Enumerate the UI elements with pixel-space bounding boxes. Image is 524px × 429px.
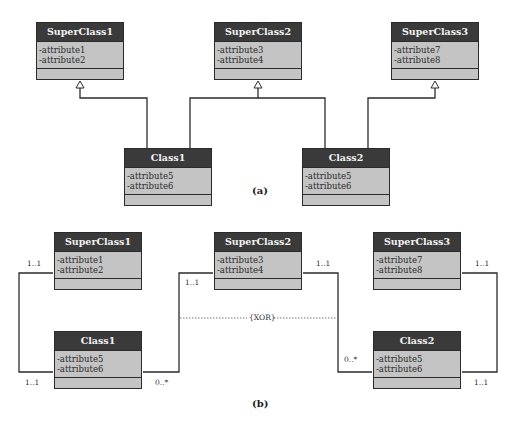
class-name: Class2 (374, 332, 460, 351)
attribute: -attribute5 (305, 171, 389, 181)
attribute: -attribute6 (127, 181, 211, 191)
class-operations (392, 69, 478, 79)
class-operations (303, 195, 389, 205)
multiplicity-label: 0..* (344, 355, 357, 364)
attribute: -attribute6 (376, 364, 460, 374)
attribute: -attribute8 (376, 265, 460, 275)
class-attributes: -attribute5 -attribute6 (303, 168, 389, 195)
attribute: -attribute5 (127, 171, 211, 181)
class-name: Class1 (125, 149, 211, 168)
attribute: -attribute1 (57, 255, 141, 265)
class-name: SuperClass3 (392, 23, 478, 42)
class-box-class1-b[interactable]: Class1 -attribute5 -attribute6 (54, 331, 142, 389)
caption-b: (b) (252, 398, 268, 409)
class-attributes: -attribute1 -attribute2 (37, 42, 123, 69)
class-box-superclass2-b[interactable]: SuperClass2 -attribute3 -attribute4 (214, 232, 302, 290)
multiplicity-label: 1..1 (27, 259, 41, 268)
generalization-arrow-icon (431, 81, 439, 88)
class-operations (374, 279, 460, 289)
class-box-superclass2-a[interactable]: SuperClass2 -attribute3 -attribute4 (214, 22, 302, 80)
class-box-class2-b[interactable]: Class2 -attribute5 -attribute6 (373, 331, 461, 389)
class-operations (215, 279, 301, 289)
class-attributes: -attribute7 -attribute8 (392, 42, 478, 69)
class-attributes: -attribute5 -attribute6 (125, 168, 211, 195)
attribute: -attribute6 (57, 364, 141, 374)
class-attributes: -attribute1 -attribute2 (55, 252, 141, 279)
class-attributes: -attribute7 -attribute8 (374, 252, 460, 279)
attribute: -attribute3 (217, 45, 301, 55)
multiplicity-label: 1..1 (185, 278, 199, 287)
attribute: -attribute1 (39, 45, 123, 55)
xor-constraint-label: {XOR} (249, 313, 276, 322)
attribute: -attribute5 (57, 354, 141, 364)
multiplicity-label: 1..1 (474, 378, 488, 387)
class-attributes: -attribute3 -attribute4 (215, 252, 301, 279)
class-operations (215, 69, 301, 79)
attribute: -attribute7 (376, 255, 460, 265)
class-name: Class2 (303, 149, 389, 168)
generalization-arrow-icon (254, 81, 262, 88)
class-box-superclass3-b[interactable]: SuperClass3 -attribute7 -attribute8 (373, 232, 461, 290)
class-name: Class1 (55, 332, 141, 351)
class-attributes: -attribute3 -attribute4 (215, 42, 301, 69)
attribute: -attribute7 (394, 45, 478, 55)
class-operations (37, 69, 123, 79)
caption-a: (a) (252, 185, 268, 196)
class-name: SuperClass2 (215, 23, 301, 42)
multiplicity-label: 1..1 (316, 259, 330, 268)
multiplicity-label: 0..* (155, 378, 168, 387)
class-operations (125, 195, 211, 205)
multiplicity-label: 1..1 (25, 378, 39, 387)
generalization-arrow-icon (76, 81, 84, 88)
attribute: -attribute2 (39, 55, 123, 65)
attribute: -attribute3 (217, 255, 301, 265)
class-box-superclass3-a[interactable]: SuperClass3 -attribute7 -attribute8 (391, 22, 479, 80)
class-box-superclass1-b[interactable]: SuperClass1 -attribute1 -attribute2 (54, 232, 142, 290)
class-name: SuperClass1 (55, 233, 141, 252)
class-operations (55, 378, 141, 388)
class-attributes: -attribute5 -attribute6 (55, 351, 141, 378)
attribute: -attribute4 (217, 55, 301, 65)
attribute: -attribute4 (217, 265, 301, 275)
attribute: -attribute2 (57, 265, 141, 275)
class-box-class2-a[interactable]: Class2 -attribute5 -attribute6 (302, 148, 390, 206)
class-name: SuperClass1 (37, 23, 123, 42)
class-attributes: -attribute5 -attribute6 (374, 351, 460, 378)
class-box-class1-a[interactable]: Class1 -attribute5 -attribute6 (124, 148, 212, 206)
class-operations (374, 378, 460, 388)
class-operations (55, 279, 141, 289)
multiplicity-label: 1..1 (475, 259, 489, 268)
class-name: SuperClass2 (215, 233, 301, 252)
class-name: SuperClass3 (374, 233, 460, 252)
attribute: -attribute8 (394, 55, 478, 65)
class-box-superclass1-a[interactable]: SuperClass1 -attribute1 -attribute2 (36, 22, 124, 80)
attribute: -attribute5 (376, 354, 460, 364)
attribute: -attribute6 (305, 181, 389, 191)
